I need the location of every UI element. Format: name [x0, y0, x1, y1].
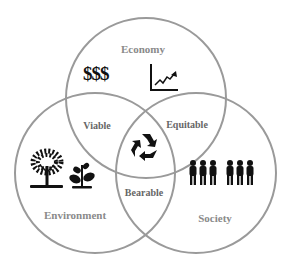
venn-diagram	[0, 0, 291, 262]
viable-label: Viable	[83, 120, 110, 131]
environment-circle	[15, 93, 175, 253]
sprout-icon	[68, 162, 96, 189]
bearable-label: Bearable	[125, 187, 163, 198]
dollar-signs-icon: $$$	[83, 63, 109, 85]
people-group-icon	[190, 160, 254, 185]
recycle-icon	[131, 134, 157, 161]
tree-icon	[30, 151, 63, 188]
growth-chart-icon	[151, 64, 178, 90]
equitable-label: Equitable	[166, 119, 208, 130]
society-label: Society	[198, 212, 232, 224]
economy-label: Economy	[121, 43, 165, 55]
environment-label: Environment	[44, 209, 106, 221]
